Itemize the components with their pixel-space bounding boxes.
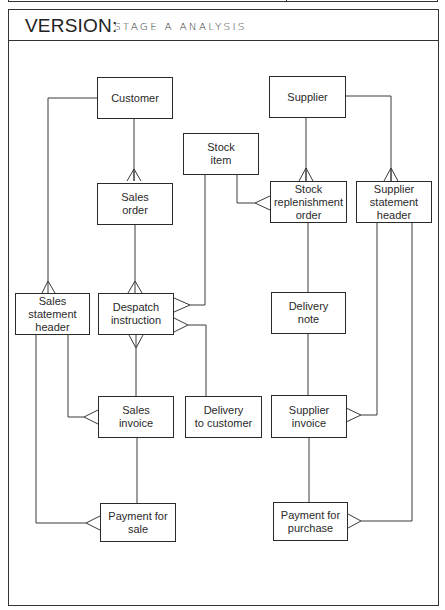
entity-payment-for-purchase[interactable]: Payment for purchase	[273, 502, 348, 541]
entity-label: Stock item	[207, 141, 235, 167]
entity-label: Delivery to customer	[195, 404, 252, 430]
entity-label: Sales statement header	[28, 295, 76, 334]
entity-supplier[interactable]: Supplier	[269, 76, 346, 118]
entity-label: Delivery note	[289, 300, 329, 326]
entity-supplier-statement-header[interactable]: Supplier statement header	[356, 181, 432, 223]
rel-sales-order-despatch	[128, 225, 142, 293]
rel-despatch-sales-invoice	[129, 335, 143, 396]
rel-supplier-ssh	[345, 96, 398, 181]
entity-label: Payment for purchase	[281, 509, 340, 535]
entity-stock-item[interactable]: Stock item	[183, 133, 259, 175]
rel-stock-item-replenishment	[237, 175, 270, 210]
entity-stock-replenishment-order[interactable]: Stock replenishment order	[270, 181, 347, 223]
entity-label: Customer	[111, 92, 159, 105]
entity-label: Supplier invoice	[289, 404, 329, 430]
entity-delivery-note[interactable]: Delivery note	[271, 292, 346, 334]
rel-ssh-sales-invoice	[68, 335, 98, 424]
entity-sales-order[interactable]: Sales order	[97, 183, 173, 225]
entity-payment-for-sale[interactable]: Payment for sale	[100, 503, 176, 542]
rel-ssh-supplier-invoice	[346, 223, 377, 422]
rel-supplier-replenishment	[299, 118, 313, 181]
rel-ssh-payment-purchase	[348, 223, 412, 528]
entity-label: Supplier	[287, 91, 327, 104]
entity-label: Stock replenishment order	[274, 183, 343, 222]
entity-label: Payment for sale	[108, 510, 167, 536]
rel-delivery-customer-despatch	[174, 318, 206, 396]
entity-label: Sales invoice	[119, 404, 153, 430]
entity-sales-invoice[interactable]: Sales invoice	[98, 396, 174, 438]
entity-delivery-to-customer[interactable]: Delivery to customer	[185, 396, 262, 438]
rel-stock-item-despatch	[174, 175, 205, 312]
rel-customer-sales-statement-header	[42, 98, 97, 293]
entity-customer[interactable]: Customer	[97, 77, 173, 119]
entity-label: Despatch instruction	[111, 301, 161, 327]
entity-sales-statement-header[interactable]: Sales statement header	[15, 293, 90, 335]
entity-label: Sales order	[121, 191, 149, 217]
entity-label: Supplier statement header	[370, 183, 418, 222]
entity-despatch-instruction[interactable]: Despatch instruction	[98, 293, 174, 335]
entity-supplier-invoice[interactable]: Supplier invoice	[271, 395, 347, 438]
rel-customer-sales-order	[127, 119, 141, 181]
